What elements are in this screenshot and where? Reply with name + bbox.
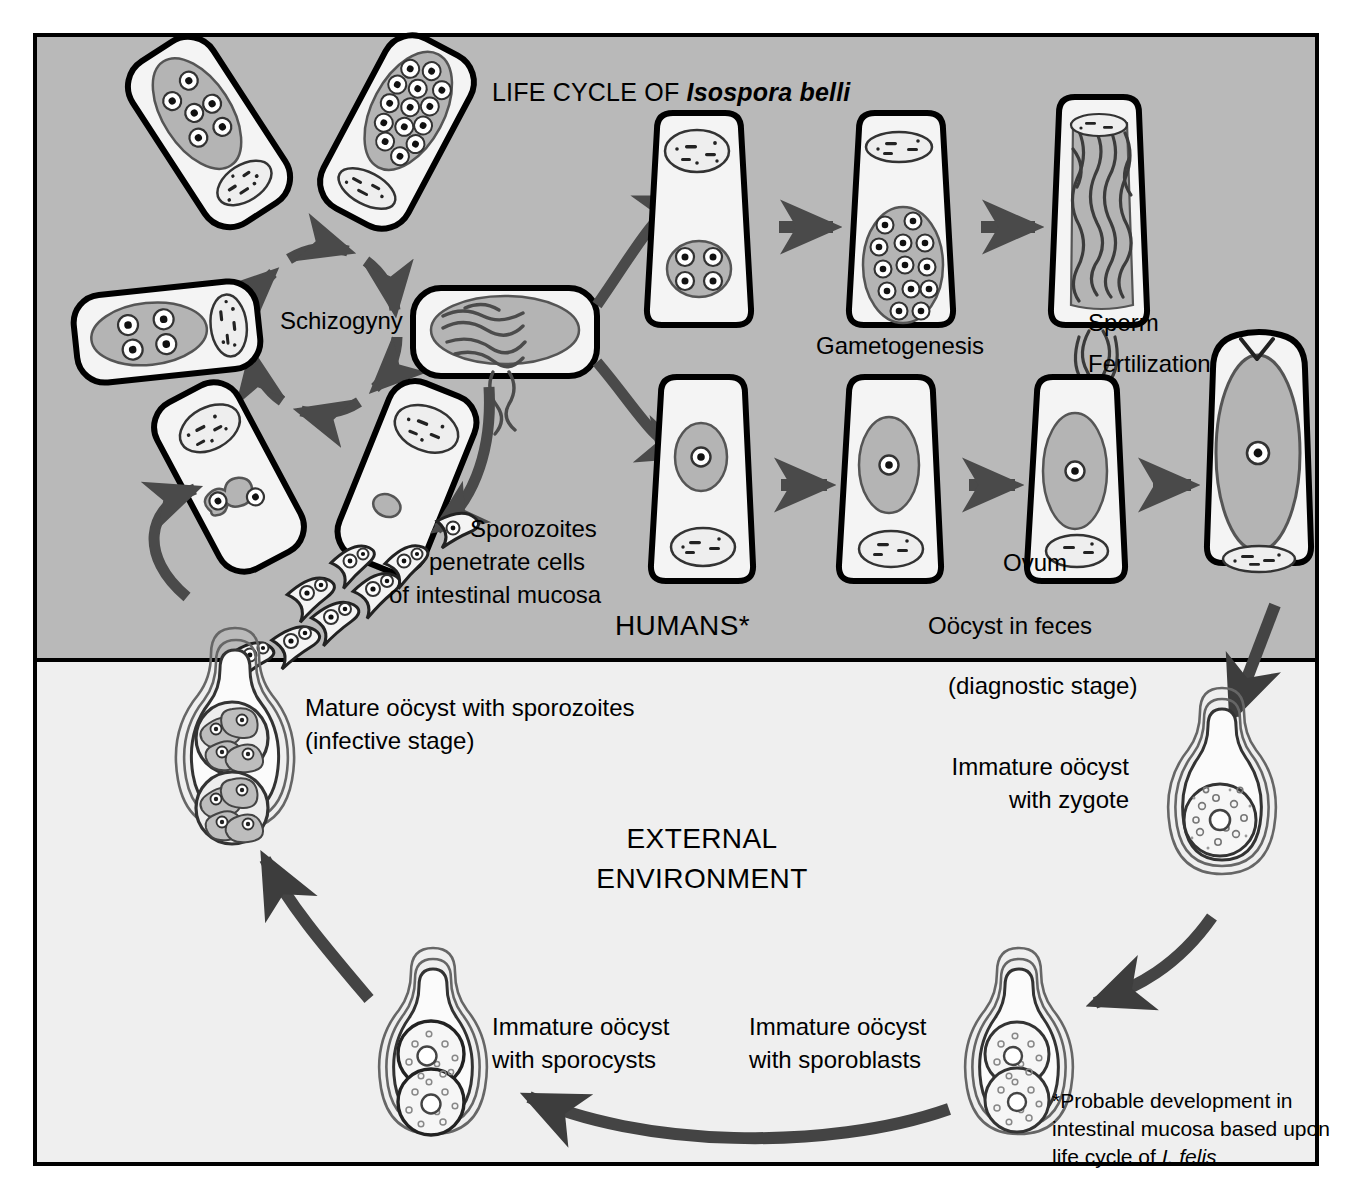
label-immature-zygote-line1: Immature oöcyst: [889, 752, 1129, 781]
schizont-four-nuclei: [71, 279, 263, 386]
arrow-zygote-to-sporoblast: [1095, 917, 1212, 1003]
label-sporocysts-line1: Immature oöcyst: [492, 1012, 669, 1041]
trophozoite-dividing: [144, 372, 313, 581]
label-sporoblasts-line1: Immature oöcyst: [749, 1012, 926, 1041]
label-fertilization: Fertilization: [1088, 349, 1211, 378]
macrogamete-stage-1: [651, 377, 753, 581]
diagram-canvas: LIFE CYCLE OF Isospora belli Schizogyny …: [0, 0, 1352, 1199]
macrogamete-row: [651, 332, 1311, 581]
footnote-line3-prefix: life cycle of: [1052, 1145, 1162, 1168]
arrow-ovum-to-feces: [1233, 605, 1275, 715]
oocyst-with-zygote: [1168, 688, 1276, 874]
ovum-cell: [1207, 332, 1311, 572]
label-oocyst-in-feces: Oöcyst in feces: [928, 611, 1092, 640]
title-prefix: LIFE CYCLE OF: [492, 78, 687, 106]
label-mature-oocyst-line1: Mature oöcyst with sporozoites: [305, 693, 634, 722]
mature-oocyst: [176, 628, 294, 844]
oocyst-with-sporocysts: [379, 948, 487, 1135]
microgametocyte-multinucleate: [849, 113, 953, 325]
title-species: Isospora belli: [687, 78, 851, 106]
footnote-line3: life cycle of I. felis: [1052, 1143, 1217, 1170]
label-immature-zygote-line2: with zygote: [889, 785, 1129, 814]
footnote-species: I. felis: [1162, 1145, 1217, 1168]
label-schizogyny: Schizogyny: [280, 306, 403, 335]
label-gametogenesis: Gametogenesis: [816, 331, 984, 360]
label-diagnostic-stage: (diagnostic stage): [948, 671, 1137, 700]
label-sperm: Sperm: [1088, 308, 1159, 337]
label-ovum: Ovum: [1003, 548, 1067, 577]
label-sporozoites-line3: of intestinal mucosa: [389, 580, 601, 609]
label-humans-zone: HUMANS*: [615, 609, 750, 643]
arrow-sporoblast-to-sporocyst: [529, 1097, 949, 1138]
diagram-title: LIFE CYCLE OF Isospora belli: [492, 77, 850, 108]
macrogamete-stage-2: [839, 377, 941, 581]
label-sporozoites-line2: penetrate cells: [429, 547, 585, 576]
label-sporozoites-line1: Sporozoites: [470, 514, 597, 543]
lifecycle-artwork: [37, 37, 1323, 1170]
schizont-early: [116, 25, 301, 238]
label-external-line2: ENVIRONMENT: [537, 862, 867, 896]
microgametocyte-4n: [647, 113, 751, 325]
label-mature-oocyst-line2: (infective stage): [305, 726, 474, 755]
schizont-mature: [310, 25, 485, 240]
label-sporocysts-line2: with sporocysts: [492, 1045, 656, 1074]
diagram-frame: LIFE CYCLE OF Isospora belli Schizogyny …: [33, 33, 1319, 1166]
footnote-line2: intestinal mucosa based upon: [1052, 1115, 1330, 1142]
label-sporoblasts-line2: with sporoblasts: [749, 1045, 921, 1074]
footnote-line1: *Probable development in: [1052, 1087, 1293, 1114]
label-external-line1: EXTERNAL: [537, 822, 867, 856]
arrow-sporocyst-to-mature: [265, 859, 369, 999]
